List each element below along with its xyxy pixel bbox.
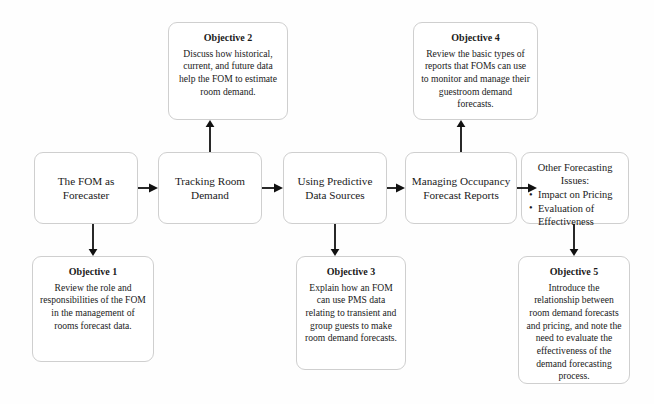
arrow-stage2-to-objective2 (202, 120, 218, 152)
diagram-canvas: Objective 2 Discuss how historical, curr… (0, 0, 654, 404)
arrow-stage2-to-stage3 (262, 180, 283, 196)
arrow-stage4-to-objective4 (453, 120, 469, 152)
objective-5-box: Objective 5 Introduce the relationship b… (518, 256, 630, 384)
stage-4-box: Managing Occupancy Forecast Reports (405, 152, 517, 224)
objective-1-box: Objective 1 Review the role and responsi… (32, 256, 154, 362)
arrow-stage3-to-stage4 (387, 180, 405, 196)
objective-2-body: Discuss how historical, current, and fut… (175, 48, 281, 99)
stage-3-line-1: Using Predictive (298, 174, 373, 188)
objective-3-box: Objective 3 Explain how an FOM can use P… (296, 256, 406, 370)
objective-5-title: Objective 5 (550, 266, 599, 279)
stage-3-line-2: Data Sources (305, 188, 364, 202)
objective-1-title: Objective 1 (69, 266, 118, 279)
objective-4-box: Objective 4 Review the basic types of re… (413, 22, 538, 120)
stage-2-line-1: Tracking Room (175, 174, 245, 188)
stage-1-box: The FOM as Forecaster (34, 152, 138, 224)
issues-bullet-list: Impact on Pricing Evaluation of Effectiv… (529, 188, 621, 229)
arrow-stage1-to-stage2 (138, 180, 158, 196)
arrow-stage4-to-stage5 (517, 180, 537, 196)
stage-3-box: Using Predictive Data Sources (283, 152, 387, 224)
stage-5-issues-box: Other Forecasting Issues: Impact on Pric… (521, 152, 629, 224)
objective-2-title: Objective 2 (204, 32, 253, 45)
objective-4-title: Objective 4 (451, 32, 500, 45)
issues-bullet-item: Impact on Pricing (529, 188, 621, 202)
objective-1-body: Review the role and responsibilities of … (39, 282, 147, 333)
stage-4-line-1: Managing Occupancy (412, 174, 510, 188)
arrow-stage5-to-objective5 (566, 224, 582, 256)
arrow-stage3-to-objective3 (327, 224, 343, 256)
stage-1-line-2: Forecaster (63, 188, 110, 202)
issues-heading-line-2: Issues: (529, 174, 621, 187)
stage-1-line-1: The FOM as (58, 174, 115, 188)
objective-4-body: Review the basic types of reports that F… (420, 48, 531, 111)
objective-3-title: Objective 3 (327, 266, 376, 279)
issues-heading-line-1: Other Forecasting (529, 161, 621, 174)
objective-3-body: Explain how an FOM can use PMS data rela… (303, 282, 399, 345)
stage-2-box: Tracking Room Demand (158, 152, 262, 224)
stage-4-line-2: Forecast Reports (423, 188, 499, 202)
objective-2-box: Objective 2 Discuss how historical, curr… (168, 22, 288, 120)
stage-2-line-2: Demand (191, 188, 229, 202)
arrow-stage1-to-objective1 (85, 224, 101, 256)
objective-5-body: Introduce the relationship between room … (525, 282, 623, 383)
